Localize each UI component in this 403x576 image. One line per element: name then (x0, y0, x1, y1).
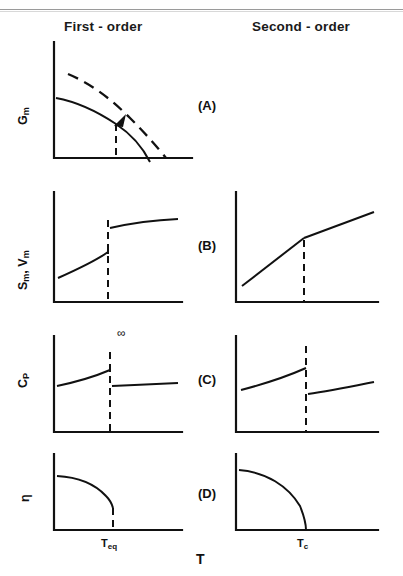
y-axis-label-sm-vm: Sm, Vm (16, 250, 31, 290)
plot-D-second-order (228, 452, 380, 544)
x-tick-label-teq: Teq (101, 537, 117, 551)
plot-A-first-order (46, 40, 196, 168)
y-axis-label-eta: η (18, 494, 32, 502)
panel-letter-C: (C) (198, 372, 216, 387)
plot-B-first-order (46, 190, 186, 312)
page-top-rule-secondary (0, 11, 403, 12)
y-axis-label-gm: Gm (16, 107, 31, 125)
plot-C-second-order (228, 332, 380, 444)
page-top-rule (0, 9, 403, 10)
column-header-second-order: Second - order (252, 19, 350, 34)
panel-letter-B: (B) (198, 238, 216, 253)
column-header-first-order: First - order (64, 19, 142, 34)
y-axis-label-cp: CP (16, 373, 31, 388)
plot-B-second-order (228, 190, 380, 312)
panel-letter-A: (A) (198, 98, 216, 113)
x-axis-title: T (196, 551, 205, 567)
panel-letter-D: (D) (198, 486, 216, 501)
plot-D-first-order (46, 452, 186, 544)
plot-C-first-order (46, 332, 186, 444)
x-tick-label-tc: Tc (297, 537, 308, 551)
figure-root: First - order Second - order Gm (A) Sm, … (0, 0, 403, 576)
